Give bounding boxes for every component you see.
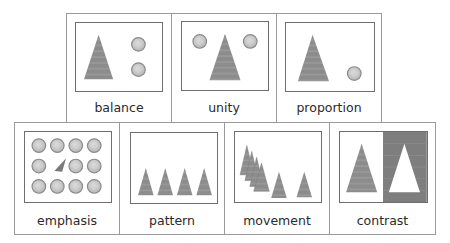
card-label: movement <box>225 213 329 228</box>
card-unity: unity <box>171 13 277 123</box>
card-label: pattern <box>120 213 224 228</box>
circle-icon <box>193 35 207 49</box>
card-proportion: proportion <box>276 13 382 123</box>
card-label: contrast <box>330 213 435 228</box>
circle-icon <box>132 63 146 77</box>
pointer-triangle-icon <box>54 158 66 172</box>
balance-illustration <box>75 22 163 92</box>
contrast-illustration <box>339 131 428 203</box>
card-label: proportion <box>277 100 381 115</box>
card-balance: balance <box>66 13 172 123</box>
card-movement: movement <box>224 122 330 235</box>
card-contrast: contrast <box>329 122 436 235</box>
triangle-icon <box>298 35 329 82</box>
triangle-icon <box>209 34 240 81</box>
triangle-icon <box>346 144 377 193</box>
card-label: unity <box>172 100 276 115</box>
unity-illustration <box>181 21 269 91</box>
circle-icon <box>347 67 361 81</box>
triangle-icon <box>84 35 113 80</box>
circle-icon <box>243 35 257 49</box>
card-label: emphasis <box>15 213 119 228</box>
card-label: balance <box>67 100 171 115</box>
proportion-illustration <box>285 22 375 92</box>
circle-icon <box>132 38 146 52</box>
card-emphasis: emphasis <box>14 122 120 235</box>
pattern-illustration <box>130 132 218 204</box>
movement-illustration <box>234 131 322 203</box>
card-pattern: pattern <box>119 122 225 235</box>
emphasis-illustration <box>24 131 112 203</box>
